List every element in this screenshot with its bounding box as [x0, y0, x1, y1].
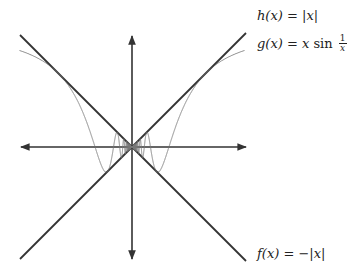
h-line-right: [132, 33, 246, 147]
g-label: g(x) = x sin 1x: [257, 35, 347, 54]
h-line-left: [20, 35, 132, 147]
g-label-frac-den: x: [339, 44, 347, 53]
h-label-lhs: h(x): [257, 8, 283, 23]
f-label-rhs: −|x|: [298, 246, 325, 261]
h-label-rhs: |x|: [302, 8, 318, 23]
g-label-fraction: 1x: [339, 34, 347, 53]
g-label-eq: =: [283, 36, 302, 51]
f-label: f(x) = −|x|: [257, 247, 325, 260]
f-line-left: [20, 147, 132, 259]
f-label-lhs: f(x): [257, 246, 279, 261]
f-line-right: [132, 147, 246, 261]
g-label-lhs: g(x): [257, 36, 283, 51]
h-label: h(x) = |x|: [257, 9, 318, 22]
g-label-sin: sin: [309, 36, 336, 51]
h-label-eq: =: [283, 8, 302, 23]
f-label-eq: =: [279, 246, 298, 261]
